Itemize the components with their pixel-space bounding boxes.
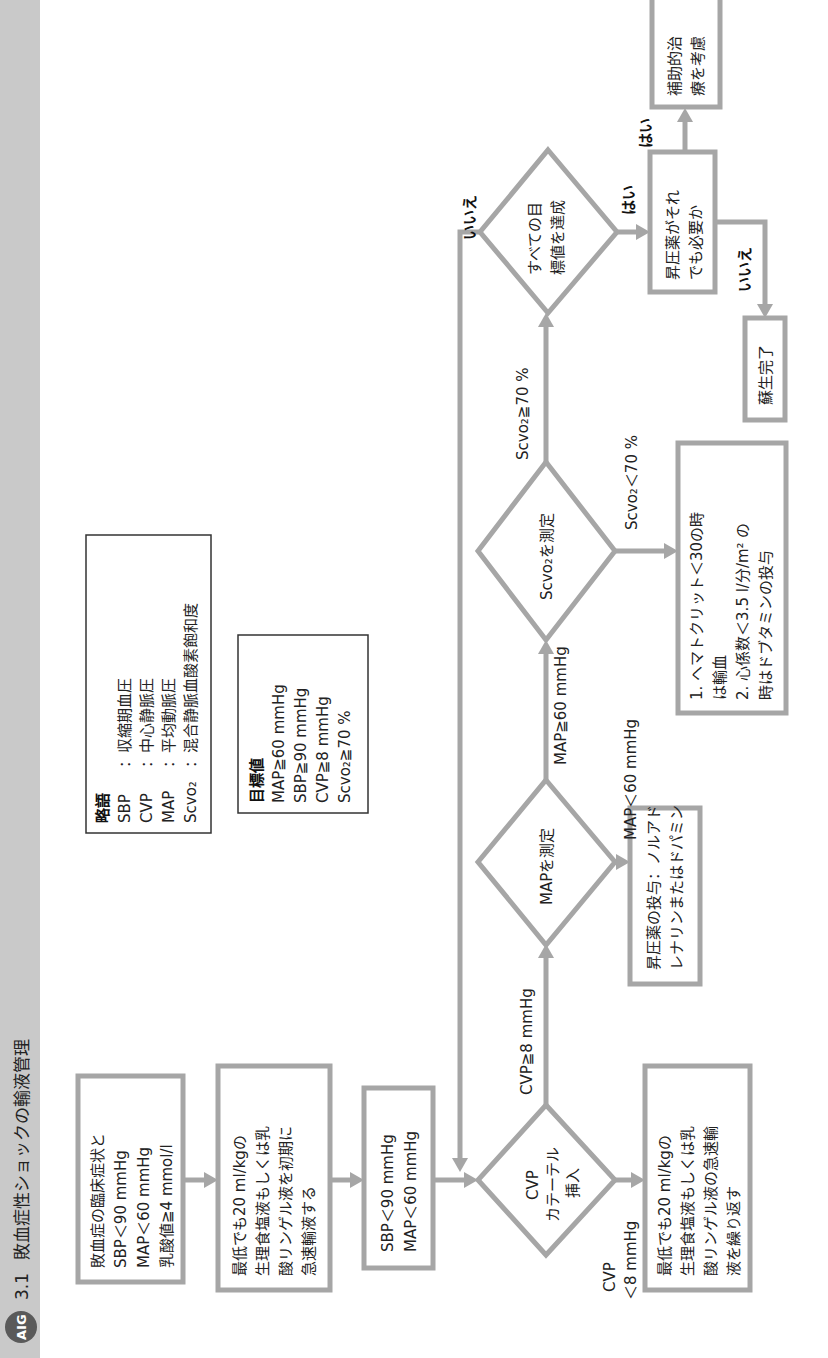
svg-text:挿入: 挿入 [564,1168,582,1198]
arrow-icon [538,313,554,327]
svg-text:蘇生完了: 蘇生完了 [757,345,775,405]
svg-text:カテーテル: カテーテル [544,1147,562,1222]
abbreviations-legend: 略語 SBP ：収縮期血圧 CVP ：中心静脈圧 MAP ：平均動脈圧 Scvo… [86,535,211,833]
label-still-no: いいえ [736,247,754,292]
label-still-yes: はい [637,118,655,148]
figure-number: 3.1 [12,1273,32,1300]
diamond-goals-achieved: すべての目 標値を達成 [480,150,617,313]
svg-text:標値を達成: 標値を達成 [549,200,567,275]
svg-text:酸リンゲル液を初期に: 酸リンゲル液を初期に [277,1126,295,1276]
svg-text:時はドブタミンの投与: 時はドブタミンの投与 [757,550,775,700]
svg-text:略語: 略語 [94,793,112,823]
svg-text:：中心静脈圧: ：中心静脈圧 [138,678,156,768]
label-map-high: MAP≧60 mmHg [552,646,570,765]
svg-text:Scvo₂: Scvo₂ [182,781,200,823]
svg-text:最低でも20 ml/kgの: 最低でも20 ml/kgの [231,1135,249,1276]
svg-text:昇圧薬の投与：ノルアド: 昇圧薬の投与：ノルアド [645,805,663,970]
box-adjunct-therapy: 補助的治 療を考慮 [652,0,720,107]
svg-text:MAP: MAP [160,791,178,823]
svg-text:MAP＜60 mmHg: MAP＜60 mmHg [402,1131,420,1252]
box-sepsis-criteria: 敗血症の臨床症状と SBP＜90 mmHg MAP＜60 mmHg 乳酸値≧4 … [78,1076,183,1282]
label-scvo2-high: Scvo₂≧70 % [514,367,532,460]
svg-text:1. ヘマトクリット＜30の時: 1. ヘマトクリット＜30の時 [688,512,706,700]
svg-text:CVP≧8 mmHg: CVP≧8 mmHg [314,696,332,803]
box-still-vasopressor: 昇圧薬がそれ でも必要か [650,152,715,292]
flowchart: AIG 3.1 敗血症性ショックの輸液管理 敗血症の臨床症状と SBP＜90 m… [0,0,828,1358]
label-cvp-high: CVP≧8 mmHg [518,988,536,1095]
svg-text:でも必要か: でも必要か [687,205,705,280]
svg-text:目標値: 目標値 [248,758,266,803]
svg-text:乳酸値≧4 mmol/l: 乳酸値≧4 mmol/l [158,1144,176,1268]
svg-text:MAPを測定: MAPを測定 [538,828,556,905]
logo-text: AIG [14,1314,29,1340]
box-repeat-fluid: 最低でも20 ml/kgの 生理食塩液もしくは乳 酸リンゲル液の急速輸 液を繰り… [645,1066,750,1290]
svg-text:酸リンゲル液の急速輸: 酸リンゲル液の急速輸 [702,1126,720,1276]
svg-text:補助的治: 補助的治 [666,36,684,96]
svg-text:敗血症の臨床症状と: 敗血症の臨床症状と [89,1133,107,1268]
arrow-icon [452,1158,468,1172]
svg-text:生理食塩液もしくは乳: 生理食塩液もしくは乳 [254,1126,272,1276]
svg-text:SBP≧90 mmHg: SBP≧90 mmHg [292,688,310,803]
box-persistent-hypotension: SBP＜90 mmHg MAP＜60 mmHg [364,1088,433,1268]
label-scvo2-low: Scvo₂＜70 % [623,435,641,530]
svg-text:最低でも20 ml/kgの: 最低でも20 ml/kgの [656,1135,674,1276]
svg-text:レナリンまたはドパミン: レナリンまたはドパミン [668,805,686,970]
diamond-scvo2-measure: Scvo₂を測定 [478,462,615,640]
svg-text:：平均動脈圧: ：平均動脈圧 [160,678,178,768]
svg-text:急速輸液する: 急速輸液する [300,1186,318,1276]
svg-text:：収縮期血圧: ：収縮期血圧 [116,678,134,768]
diamond-map-measure: MAPを測定 [478,780,615,945]
header-logo: AIG [5,1311,37,1343]
svg-text:SBP: SBP [116,794,134,823]
label-goals-yes: はい [620,185,638,215]
label-cvp-low-2: ＜8 mmHg [622,1221,640,1300]
svg-text:CVP: CVP [138,793,156,823]
svg-text:Scvo₂≧70 %: Scvo₂≧70 % [336,710,354,803]
label-cvp-low-1: CVP [601,1262,619,1292]
svg-text:は輸血: は輸血 [711,655,729,700]
box-resuscitation-complete: 蘇生完了 [745,318,785,420]
box-vasopressor: 昇圧薬の投与：ノルアド レナリンまたはドパミン [630,805,700,984]
diamond-cvp-catheter: CVP カテーテル 挿入 [478,1105,615,1255]
targets-legend: 目標値 MAP≧60 mmHg SBP≧90 mmHg CVP≧8 mmHg S… [238,635,368,813]
box-transfusion: 1. ヘマトクリット＜30の時 は輸血 2. 心係数＜3.5 l/分/m² の … [678,443,786,713]
svg-text:2. 心係数＜3.5 l/分/m² の: 2. 心係数＜3.5 l/分/m² の [734,523,752,700]
svg-text:SBP＜90 mmHg: SBP＜90 mmHg [112,1150,130,1268]
box-initial-fluid: 最低でも20 ml/kgの 生理食塩液もしくは乳 酸リンゲル液を初期に 急速輸液… [218,1066,330,1290]
svg-text:SBP＜90 mmHg: SBP＜90 mmHg [379,1134,397,1252]
arrow-icon [677,108,693,122]
svg-text:療を考慮: 療を考慮 [689,36,707,96]
svg-text:すべての目: すべての目 [526,202,544,275]
svg-text:生理食塩液もしくは乳: 生理食塩液もしくは乳 [679,1126,697,1276]
svg-text:液を繰り返す: 液を繰り返す [725,1186,743,1276]
label-goals-no: いいえ [461,195,479,240]
svg-text:Scvo₂を測定: Scvo₂を測定 [538,513,556,600]
svg-text:昇圧薬がそれ: 昇圧薬がそれ [664,190,682,280]
figure-title: 敗血症性ショックの輸液管理 [12,1039,32,1260]
svg-text:：混合静脈血酸素飽和度: ：混合静脈血酸素飽和度 [182,603,200,768]
svg-text:MAP＜60 mmHg: MAP＜60 mmHg [135,1147,153,1268]
svg-text:MAP≧60 mmHg: MAP≧60 mmHg [270,684,288,803]
svg-text:CVP: CVP [524,1170,542,1200]
label-map-low: MAP＜60 mmHg [622,719,640,840]
